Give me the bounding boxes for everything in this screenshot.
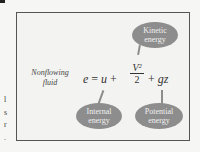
potential-bubble-tail (161, 90, 163, 104)
cropped-text: s (4, 108, 7, 118)
potential-energy-bubble: Potentialenergy (135, 103, 183, 129)
eq-plus: + (148, 72, 155, 86)
fraction-numerator: V² (130, 62, 144, 74)
potential-term: + gz (148, 72, 168, 87)
bubble-text: energy (88, 116, 110, 125)
cropped-text: . (4, 133, 6, 143)
kinetic-energy-bubble: Kineticenergy (132, 22, 178, 48)
bubble-text: Kinetic (143, 26, 167, 35)
energy-equation: e = u + (83, 72, 117, 87)
cropped-text: r (4, 120, 7, 130)
bubble-text: energy (148, 116, 170, 125)
internal-energy-bubble: Internalenergy (76, 103, 122, 129)
label-line: fluid (22, 78, 78, 88)
eq-e: e (83, 72, 88, 86)
cropped-text: l (4, 95, 6, 105)
fraction-denominator: 2 (130, 74, 144, 85)
bubble-text: Internal (87, 107, 112, 116)
eq-gz: gz (158, 72, 169, 86)
bubble-text: energy (144, 35, 166, 44)
bubble-text: Potential (145, 107, 173, 116)
page-corner-mark (0, 0, 5, 3)
eq-plus: + (110, 72, 117, 86)
eq-equals: = (91, 72, 98, 86)
eq-u: u (101, 72, 107, 86)
label-line: Nonflowing (22, 68, 78, 78)
nonflowing-fluid-label: Nonflowing fluid (22, 68, 78, 88)
kinetic-fraction: V² 2 (130, 62, 144, 85)
